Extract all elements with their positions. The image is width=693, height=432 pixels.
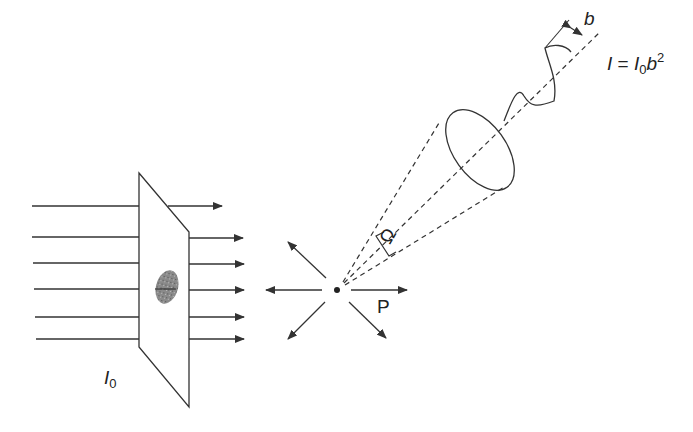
solid-angle-cone [343,32,600,285]
scattered-wave [504,45,571,121]
intensity-formula: I = I0b2 [607,50,664,77]
scatter-point [334,287,340,293]
scatter-point-label: P [377,296,390,318]
incident-intensity-label: I0 [104,367,117,391]
amplitude-label: b [584,8,595,30]
